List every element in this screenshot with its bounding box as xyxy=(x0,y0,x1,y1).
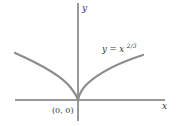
y-axis-label: y xyxy=(81,3,88,13)
curve-right-branch xyxy=(78,55,143,100)
origin-label: (0, 0) xyxy=(52,106,74,115)
graph-canvas: y x (0, 0) y = x 2/3 xyxy=(0,0,177,126)
curve-left-branch xyxy=(15,53,78,100)
equation-exponent: 2/3 xyxy=(126,42,137,49)
equation-base: y = x xyxy=(101,44,124,54)
x-axis-label: x xyxy=(162,101,167,111)
equation-label: y = x 2/3 xyxy=(101,42,137,54)
